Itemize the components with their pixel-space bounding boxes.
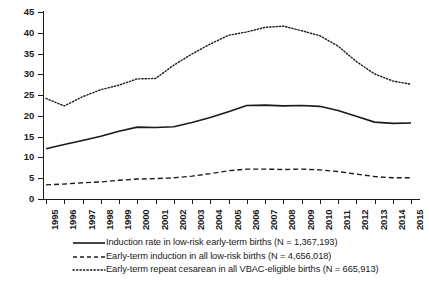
y-axis-tick-label: 30 (12, 69, 34, 78)
chart-legend: Induction rate in low-risk early-term bi… (72, 236, 422, 277)
x-axis-tick (137, 200, 138, 204)
series-line-dotted (46, 26, 411, 106)
x-axis-tick-label: 2004 (214, 210, 223, 230)
x-axis-tick-label: 1995 (50, 210, 59, 230)
y-axis-tick (38, 74, 43, 75)
x-axis-tick-label: 2006 (251, 210, 260, 230)
y-axis-tick-label: 40 (12, 28, 34, 37)
y-axis-tick (38, 95, 43, 96)
x-axis-tick-label: 2015 (415, 210, 424, 230)
y-axis-tick (38, 137, 43, 138)
solid-line-key (72, 237, 106, 248)
x-axis-tick (247, 200, 248, 204)
x-axis-tick-label: 1998 (105, 210, 114, 230)
x-axis-tick (46, 200, 47, 204)
y-axis-tick (38, 199, 43, 200)
x-axis-tick (356, 200, 357, 204)
x-axis-tick (265, 200, 266, 204)
x-axis-tick (119, 200, 120, 204)
y-axis-tick-label: 35 (12, 49, 34, 58)
x-axis-tick (156, 200, 157, 204)
dotted-line-key (72, 264, 106, 275)
x-axis-tick (411, 200, 412, 204)
x-axis-tick (229, 200, 230, 204)
x-axis-tick (210, 200, 211, 204)
legend-label: Early-term repeat cesarean in all VBAC-e… (106, 264, 379, 275)
x-axis-tick-label: 2014 (397, 210, 406, 230)
x-axis-tick-label: 2005 (233, 210, 242, 230)
x-axis-tick (192, 200, 193, 204)
y-axis-tick-label: 10 (12, 152, 34, 161)
dashed-line-key (72, 251, 106, 262)
x-axis-tick-label: 2009 (306, 210, 315, 230)
x-axis-tick-label: 2010 (324, 210, 333, 230)
x-axis-line (43, 199, 420, 200)
legend-item: Induction rate in low-risk early-term bi… (72, 236, 422, 249)
y-axis-tick-label: 20 (12, 111, 34, 120)
x-axis-tick (174, 200, 175, 204)
legend-item: Early-term induction in all low-risk bir… (72, 250, 422, 263)
x-axis-tick-label: 2012 (360, 210, 369, 230)
x-axis-tick-label: 2000 (141, 210, 150, 230)
x-axis-tick (393, 200, 394, 204)
legend-label: Early-term induction in all low-risk bir… (106, 251, 331, 262)
legend-label: Induction rate in low-risk early-term bi… (106, 237, 337, 248)
line-chart-figure: 051015202530354045 199519961997199819992… (0, 0, 429, 284)
x-axis-tick (101, 200, 102, 204)
y-axis-tick (38, 33, 43, 34)
x-axis-tick-label: 2001 (160, 210, 169, 230)
x-axis-tick (302, 200, 303, 204)
x-axis-tick-label: 2013 (379, 210, 388, 230)
x-axis-tick-label: 2007 (269, 210, 278, 230)
plot-area (44, 12, 419, 199)
x-axis-tick-label: 1999 (123, 210, 132, 230)
y-axis-tick (38, 12, 43, 13)
series-lines (44, 12, 419, 199)
legend-item: Early-term repeat cesarean in all VBAC-e… (72, 263, 422, 276)
x-axis-tick (338, 200, 339, 204)
y-axis-tick (38, 157, 43, 158)
x-axis-tick-label: 1997 (87, 210, 96, 230)
x-axis-tick (64, 200, 65, 204)
y-axis-tick-label: 25 (12, 90, 34, 99)
x-axis-tick (375, 200, 376, 204)
x-axis-tick (83, 200, 84, 204)
x-axis-tick-label: 2003 (196, 210, 205, 230)
y-axis-tick-label: 0 (12, 194, 34, 203)
y-axis-tick-label: 45 (12, 7, 34, 16)
x-axis-tick (283, 200, 284, 204)
series-line-dashed (46, 169, 411, 185)
x-axis-tick-label: 2011 (342, 210, 351, 230)
y-axis-tick (38, 116, 43, 117)
x-axis-tick (320, 200, 321, 204)
y-axis-tick (38, 178, 43, 179)
x-axis-tick-label: 1996 (68, 210, 77, 230)
y-axis-tick-label: 5 (12, 173, 34, 182)
series-line-solid (46, 105, 411, 149)
y-axis-tick-label: 15 (12, 132, 34, 141)
x-axis-tick-label: 2002 (178, 210, 187, 230)
y-axis-tick (38, 54, 43, 55)
x-axis-tick-label: 2008 (287, 210, 296, 230)
